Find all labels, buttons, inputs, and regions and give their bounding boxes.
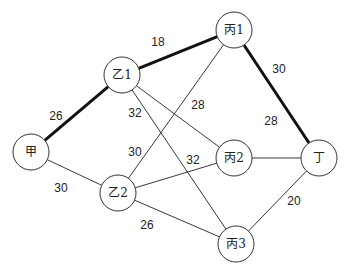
node-ding: 丁 bbox=[301, 140, 337, 176]
edge-weight-label: 30 bbox=[54, 181, 68, 195]
node-label: 丙1 bbox=[224, 23, 244, 37]
edge-weight-label: 30 bbox=[128, 145, 142, 159]
edge-weight-label: 30 bbox=[272, 62, 286, 76]
graph-diagram: 2630182832303226302820 甲乙1乙2丙1丙2丙3丁 bbox=[0, 0, 350, 274]
node-label: 甲 bbox=[25, 145, 37, 159]
node-bing2: 丙2 bbox=[216, 140, 252, 176]
node-label: 丙3 bbox=[226, 237, 246, 251]
node-label: 乙1 bbox=[112, 68, 132, 82]
edge-weight-label: 18 bbox=[151, 35, 165, 49]
edge-weight-label: 26 bbox=[140, 218, 154, 232]
edge-yi1-bing3 bbox=[132, 90, 226, 229]
edge-weight-label: 28 bbox=[191, 98, 205, 112]
node-label: 乙2 bbox=[108, 186, 128, 200]
node-label: 丙2 bbox=[224, 151, 244, 165]
edge-weight-label: 26 bbox=[49, 109, 63, 123]
node-yi1: 乙1 bbox=[104, 57, 140, 93]
edge-yi2-bing2 bbox=[135, 163, 217, 188]
edge-yi2-bing1 bbox=[128, 45, 223, 179]
edge-weight-label: 32 bbox=[186, 153, 200, 167]
edge-bing1-ding bbox=[244, 45, 309, 143]
node-bing1: 丙1 bbox=[216, 12, 252, 48]
weight-labels-layer: 2630182832303226302820 bbox=[49, 35, 301, 232]
edge-weight-label: 28 bbox=[264, 114, 278, 128]
node-yi2: 乙2 bbox=[100, 175, 136, 211]
node-jia: 甲 bbox=[13, 134, 49, 170]
edge-weight-label: 32 bbox=[128, 106, 142, 120]
node-label: 丁 bbox=[313, 151, 325, 165]
edges-layer bbox=[45, 37, 309, 237]
edge-yi1-bing2 bbox=[136, 86, 219, 148]
node-bing3: 丙3 bbox=[218, 226, 254, 262]
nodes-layer: 甲乙1乙2丙1丙2丙3丁 bbox=[13, 12, 337, 262]
edge-weight-label: 20 bbox=[287, 194, 301, 208]
